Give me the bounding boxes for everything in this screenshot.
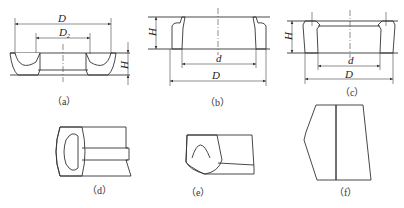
dim-label-D2-sub: 2: [67, 33, 70, 39]
caption-c: （c）: [340, 87, 364, 98]
caption-a: （a）: [52, 96, 76, 107]
seal-diagram: D D 2 H （a） H d D （b）: [0, 0, 404, 208]
dim-label-D2: D: [58, 26, 67, 38]
panel-b: H d D （b）: [146, 8, 270, 108]
panel-a: D D 2 H （a）: [10, 12, 130, 107]
dim-label-d: d: [216, 52, 222, 64]
caption-d: （d）: [87, 185, 112, 196]
caption-b: （b）: [205, 97, 230, 108]
dim-label-D: D: [211, 69, 220, 81]
dim-label-D: D: [57, 12, 66, 24]
caption-e: （e）: [186, 187, 210, 198]
dim-label-H: H: [146, 27, 158, 37]
dim-label-H: H: [282, 31, 294, 41]
panel-f: （f）: [304, 105, 371, 198]
panel-d: （d）: [56, 127, 131, 196]
dim-label-D: D: [344, 68, 353, 80]
dim-label-d: d: [348, 54, 354, 66]
panel-e: （e）: [186, 135, 254, 198]
panel-c: H d D （c）: [282, 10, 398, 98]
dim-label-H: H: [118, 60, 130, 70]
caption-f: （f）: [334, 187, 357, 198]
